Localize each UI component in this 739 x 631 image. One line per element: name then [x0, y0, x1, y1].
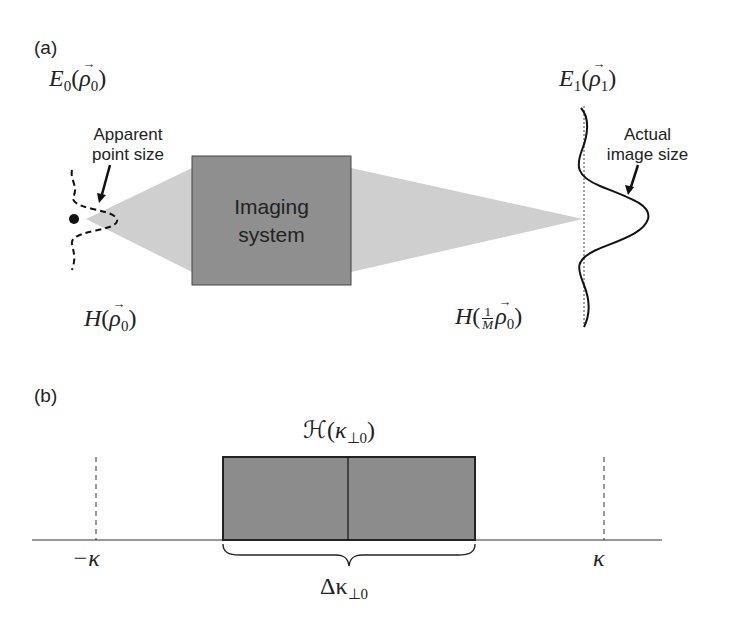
transfer-function-rect: [223, 457, 475, 540]
actual-size-arrowhead-icon: [625, 185, 634, 195]
actual-image-size-label: Actual image size: [595, 125, 700, 165]
panel-a-label: (a): [34, 37, 57, 59]
transfer-function-label: ℋ(κ⊥0): [303, 416, 375, 447]
apparent-size-arrow: [101, 165, 110, 198]
point-source-dot: [69, 214, 79, 224]
input-light-cone: [86, 168, 192, 272]
negative-cutoff-label: −κ: [72, 545, 100, 572]
source-psf-label: H(ρ0): [84, 305, 136, 335]
actual-size-arrow: [630, 165, 638, 190]
apparent-point-size-label: Apparent point size: [78, 125, 178, 165]
output-light-cone: [351, 168, 583, 272]
image-psf-label: H(1Mρ0): [455, 303, 522, 333]
panel-b-label: (b): [34, 385, 57, 407]
imaging-system-label: Imaging system: [192, 193, 351, 249]
bandwidth-brace: [223, 544, 475, 566]
source-field-label: E0(ρ0): [49, 65, 106, 95]
positive-cutoff-label: κ: [593, 545, 605, 572]
bandwidth-label: Δκ⊥0: [320, 573, 368, 603]
apparent-size-arrowhead-icon: [97, 193, 106, 203]
image-field-label: E1(ρ1): [559, 65, 616, 95]
